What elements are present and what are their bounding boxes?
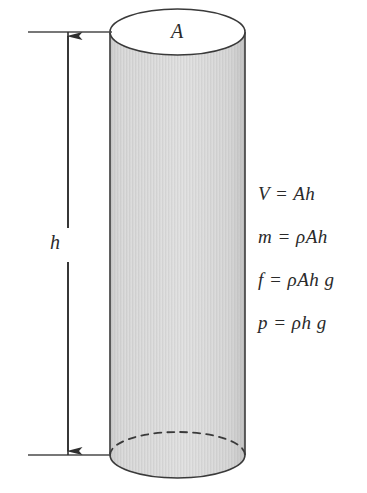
- formula-force: f = ρAh g: [258, 258, 366, 301]
- physics-diagram-canvas: A h V = Ah m = ρAh f = ρAh g p = ρh g: [0, 0, 367, 493]
- formula-mass: m = ρAh: [258, 215, 366, 258]
- height-label-backdrop: [60, 228, 80, 262]
- formula-volume: V = Ah: [258, 172, 366, 215]
- area-label: A: [171, 20, 183, 43]
- formula-pressure: p = ρh g: [258, 301, 366, 344]
- cylinder-body-shading: [110, 32, 245, 478]
- height-label: h: [50, 231, 60, 254]
- formula-list: V = Ah m = ρAh f = ρAh g p = ρh g: [258, 172, 366, 344]
